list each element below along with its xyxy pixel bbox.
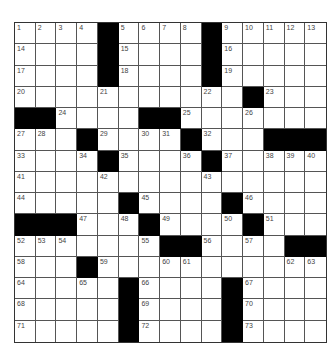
answer-cell[interactable] (139, 44, 160, 65)
answer-cell[interactable] (56, 129, 77, 150)
answer-cell[interactable] (243, 44, 264, 65)
answer-cell[interactable] (264, 193, 285, 214)
answer-cell[interactable] (36, 257, 57, 278)
answer-cell[interactable] (285, 44, 306, 65)
answer-cell[interactable] (119, 87, 140, 108)
answer-cell[interactable]: 57 (243, 236, 264, 257)
answer-cell[interactable]: 8 (181, 23, 202, 44)
answer-cell[interactable] (285, 299, 306, 320)
answer-cell[interactable]: 14 (15, 44, 36, 65)
answer-cell[interactable] (305, 193, 326, 214)
answer-cell[interactable]: 39 (285, 151, 306, 172)
answer-cell[interactable]: 18 (119, 66, 140, 87)
answer-cell[interactable]: 28 (36, 129, 57, 150)
answer-cell[interactable] (139, 87, 160, 108)
answer-cell[interactable] (285, 193, 306, 214)
answer-cell[interactable] (36, 193, 57, 214)
answer-cell[interactable] (56, 278, 77, 299)
answer-cell[interactable] (98, 214, 119, 235)
answer-cell[interactable]: 19 (222, 66, 243, 87)
answer-cell[interactable]: 63 (305, 257, 326, 278)
answer-cell[interactable] (119, 236, 140, 257)
answer-cell[interactable] (305, 44, 326, 65)
answer-cell[interactable]: 6 (139, 23, 160, 44)
answer-cell[interactable] (139, 172, 160, 193)
answer-cell[interactable]: 47 (77, 214, 98, 235)
answer-cell[interactable]: 23 (264, 87, 285, 108)
answer-cell[interactable]: 11 (264, 23, 285, 44)
answer-cell[interactable] (36, 278, 57, 299)
answer-cell[interactable] (36, 299, 57, 320)
answer-cell[interactable]: 33 (15, 151, 36, 172)
answer-cell[interactable] (56, 151, 77, 172)
answer-cell[interactable]: 27 (15, 129, 36, 150)
answer-cell[interactable] (264, 321, 285, 342)
answer-cell[interactable] (160, 193, 181, 214)
answer-cell[interactable]: 48 (119, 214, 140, 235)
answer-cell[interactable] (119, 257, 140, 278)
answer-cell[interactable] (202, 299, 223, 320)
answer-cell[interactable] (264, 172, 285, 193)
answer-cell[interactable] (181, 214, 202, 235)
answer-cell[interactable] (139, 257, 160, 278)
answer-cell[interactable] (243, 172, 264, 193)
answer-cell[interactable] (160, 44, 181, 65)
answer-cell[interactable]: 22 (202, 87, 223, 108)
answer-cell[interactable]: 7 (160, 23, 181, 44)
answer-cell[interactable] (305, 87, 326, 108)
answer-cell[interactable] (36, 87, 57, 108)
answer-cell[interactable] (222, 257, 243, 278)
answer-cell[interactable] (56, 66, 77, 87)
answer-cell[interactable]: 12 (285, 23, 306, 44)
answer-cell[interactable] (119, 129, 140, 150)
answer-cell[interactable]: 21 (98, 87, 119, 108)
answer-cell[interactable] (98, 236, 119, 257)
answer-cell[interactable] (139, 66, 160, 87)
answer-cell[interactable]: 50 (222, 214, 243, 235)
answer-cell[interactable] (160, 87, 181, 108)
answer-cell[interactable]: 65 (77, 278, 98, 299)
answer-cell[interactable] (98, 278, 119, 299)
answer-cell[interactable]: 1 (15, 23, 36, 44)
answer-cell[interactable]: 56 (202, 236, 223, 257)
answer-cell[interactable] (264, 108, 285, 129)
answer-cell[interactable] (160, 299, 181, 320)
answer-cell[interactable]: 66 (139, 278, 160, 299)
answer-cell[interactable]: 49 (160, 214, 181, 235)
answer-cell[interactable] (243, 129, 264, 150)
answer-cell[interactable] (77, 108, 98, 129)
answer-cell[interactable] (77, 299, 98, 320)
answer-cell[interactable]: 52 (15, 236, 36, 257)
answer-cell[interactable] (77, 321, 98, 342)
answer-cell[interactable] (202, 321, 223, 342)
answer-cell[interactable] (305, 278, 326, 299)
answer-cell[interactable]: 45 (139, 193, 160, 214)
answer-cell[interactable]: 3 (56, 23, 77, 44)
answer-cell[interactable]: 26 (243, 108, 264, 129)
answer-cell[interactable] (285, 278, 306, 299)
answer-cell[interactable]: 55 (139, 236, 160, 257)
answer-cell[interactable] (56, 321, 77, 342)
answer-cell[interactable]: 15 (119, 44, 140, 65)
answer-cell[interactable]: 72 (139, 321, 160, 342)
answer-cell[interactable] (181, 44, 202, 65)
answer-cell[interactable] (36, 66, 57, 87)
answer-cell[interactable] (305, 108, 326, 129)
answer-cell[interactable]: 69 (139, 299, 160, 320)
answer-cell[interactable] (181, 66, 202, 87)
answer-cell[interactable] (305, 321, 326, 342)
answer-cell[interactable] (36, 321, 57, 342)
answer-cell[interactable]: 34 (77, 151, 98, 172)
answer-cell[interactable]: 31 (160, 129, 181, 150)
answer-cell[interactable] (119, 172, 140, 193)
answer-cell[interactable]: 73 (243, 321, 264, 342)
answer-cell[interactable] (264, 278, 285, 299)
answer-cell[interactable]: 71 (15, 321, 36, 342)
answer-cell[interactable] (222, 172, 243, 193)
answer-cell[interactable] (56, 44, 77, 65)
answer-cell[interactable] (285, 66, 306, 87)
answer-cell[interactable]: 2 (36, 23, 57, 44)
answer-cell[interactable] (98, 108, 119, 129)
answer-cell[interactable] (77, 193, 98, 214)
answer-cell[interactable] (264, 299, 285, 320)
